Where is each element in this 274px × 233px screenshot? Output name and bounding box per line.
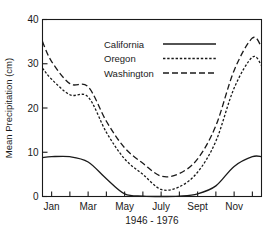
x-axis-ticks: [52, 192, 253, 197]
series-line-washington: [43, 37, 262, 177]
x-tick-label: May: [115, 201, 134, 212]
x-tick-label: Mar: [80, 201, 98, 212]
x-axis-tick-labels: JanMarMayJulySeptNov: [44, 201, 243, 212]
series-line-california: [43, 156, 262, 197]
y-tick-label: 0: [33, 191, 39, 202]
chart-canvas: 010203040 JanMarMayJulySeptNov Californi…: [0, 0, 274, 233]
y-axis-title: Mean Precipitation (cm): [3, 58, 14, 158]
x-tick-label: Jan: [44, 201, 60, 212]
chart-legend: CaliforniaOregonWashington: [104, 39, 216, 79]
y-axis-tick-labels: 010203040: [27, 14, 39, 202]
y-tick-label: 20: [27, 103, 39, 114]
x-axis-title: 1946 - 1976: [125, 215, 179, 226]
y-tick-label: 10: [27, 147, 39, 158]
y-tick-label: 40: [27, 14, 39, 25]
legend-label-oregon: Oregon: [104, 53, 136, 64]
x-tick-label: Nov: [225, 201, 243, 212]
legend-label-washington: Washington: [104, 68, 154, 79]
x-tick-label: July: [152, 201, 170, 212]
precipitation-chart-figure: 010203040 JanMarMayJulySeptNov Californi…: [0, 0, 274, 233]
x-tick-label: Sept: [187, 201, 208, 212]
y-axis-ticks: [43, 20, 48, 197]
legend-label-california: California: [104, 39, 145, 50]
y-tick-label: 30: [27, 58, 39, 69]
data-series-group: [43, 37, 262, 196]
plot-frame: [43, 20, 262, 197]
